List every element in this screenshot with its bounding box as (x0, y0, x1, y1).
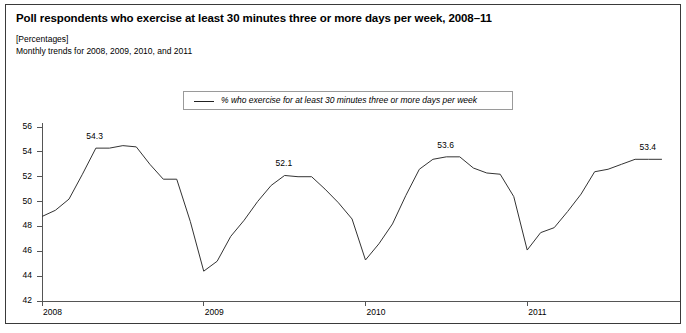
plot-area: 4244464850525456200820092010201154.352.1… (6, 5, 682, 325)
figure-panel: Poll respondents who exercise at least 3… (5, 4, 681, 324)
data-series-line (42, 146, 662, 272)
chart-svg (6, 5, 682, 325)
data-point-label: 53.4 (640, 142, 657, 152)
data-point-label: 54.3 (86, 131, 103, 141)
data-point-label: 53.6 (437, 140, 454, 150)
data-point-label: 52.1 (276, 158, 293, 168)
